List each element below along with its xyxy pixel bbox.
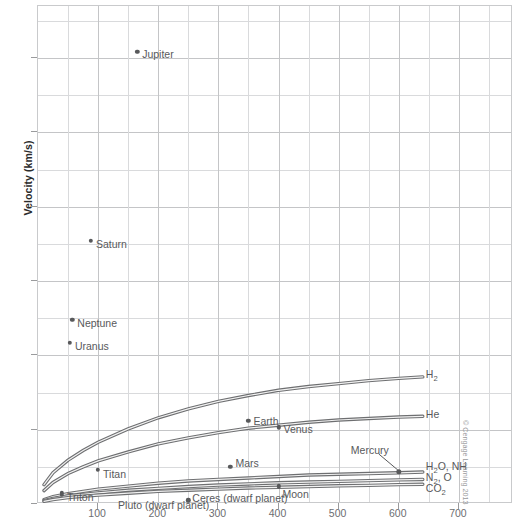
y-tick-mark bbox=[31, 429, 37, 430]
x-tick-mark bbox=[217, 503, 218, 509]
escape-velocity-chart: Velocity (km/s) JupiterSaturnNeptuneUran… bbox=[0, 0, 528, 525]
y-tick-mark bbox=[31, 206, 37, 207]
point-label-titan: Titan bbox=[103, 468, 126, 480]
point-label-earth: Earth bbox=[253, 415, 278, 427]
y-axis-label: Velocity (km/s) bbox=[22, 108, 34, 248]
x-tick-mark bbox=[338, 503, 339, 509]
point-label-neptune: Neptune bbox=[77, 317, 117, 329]
y-tick-mark bbox=[31, 57, 37, 58]
mercury-leader-line bbox=[379, 454, 398, 470]
y-tick-mark bbox=[31, 503, 37, 504]
point-label-moon: Moon bbox=[283, 488, 309, 500]
gas-label-He: He bbox=[426, 408, 439, 420]
y-tick-mark bbox=[31, 131, 37, 132]
x-tick-mark bbox=[398, 503, 399, 509]
point-label-mercury: Mercury bbox=[351, 444, 389, 456]
point-label-uranus: Uranus bbox=[75, 340, 109, 352]
plot-area: JupiterSaturnNeptuneUranusEarthVenusMars… bbox=[37, 5, 512, 503]
x-tick-mark bbox=[278, 503, 279, 509]
point-label-mars: Mars bbox=[235, 457, 258, 469]
point-label-saturn: Saturn bbox=[96, 238, 127, 250]
x-tick-mark bbox=[458, 503, 459, 509]
curve-layer bbox=[38, 6, 513, 504]
point-label-venus: Venus bbox=[284, 423, 313, 435]
point-label-ceres: Ceres (dwarf planet) bbox=[192, 492, 287, 504]
y-tick-mark bbox=[31, 354, 37, 355]
copyright-watermark: © Cengage Learning 2013 bbox=[461, 420, 470, 525]
point-label-triton: Triton bbox=[67, 491, 93, 503]
x-tick-mark bbox=[97, 503, 98, 509]
point-label-jupiter: Jupiter bbox=[142, 48, 174, 60]
y-tick-mark bbox=[31, 280, 37, 281]
gas-label-CO2: CO2 bbox=[426, 482, 446, 497]
gas-label-H2: H2 bbox=[426, 368, 438, 383]
x-tick-mark bbox=[157, 503, 158, 509]
